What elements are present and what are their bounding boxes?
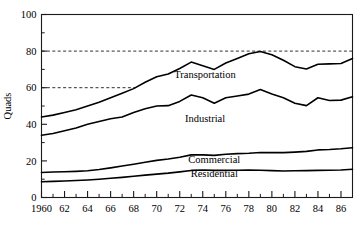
series-line-transportation: [42, 51, 353, 117]
x-tick-label-1976: 76: [221, 203, 232, 214]
x-tick-label-1984: 84: [313, 203, 324, 214]
x-tick-label-1970: 70: [151, 203, 162, 214]
x-tick-label-1966: 66: [105, 203, 116, 214]
x-tick-label-1982: 82: [290, 203, 301, 214]
y-axis-title-text: Quads: [2, 93, 13, 120]
x-tick-label-1968: 68: [128, 203, 139, 214]
series-label-industrial: Industrial: [185, 113, 225, 124]
y-tick-label-40: 40: [26, 119, 37, 130]
energy-consumption-chart: 196062646668707274767880828486 020406080…: [0, 0, 362, 230]
y-tick-label-0: 0: [31, 192, 36, 203]
y-tick-label-80: 80: [26, 46, 37, 57]
x-tick-label-1980: 80: [267, 203, 278, 214]
x-tick-label-1964: 64: [82, 203, 93, 214]
x-tick-label-1974: 74: [198, 203, 209, 214]
x-tick-label-1978: 78: [244, 203, 255, 214]
y-tick-label-100: 100: [21, 9, 37, 20]
x-tick-label-1972: 72: [174, 203, 185, 214]
x-axis-ticks: [42, 191, 353, 198]
y-axis-title: Quads: [2, 93, 13, 120]
x-tick-label-1962: 62: [59, 203, 70, 214]
x-tick-label-1960: 1960: [31, 203, 52, 214]
y-axis-ticks: [42, 15, 48, 198]
series-line-industrial: [42, 90, 353, 136]
series-label-commercial: Commercial: [188, 154, 240, 165]
y-axis-tick-labels: 020406080100: [21, 9, 37, 203]
y-tick-label-60: 60: [26, 82, 37, 93]
series-labels: TransportationIndustrialCommercialReside…: [174, 69, 240, 180]
series-label-residential: Residential: [191, 168, 238, 179]
chart-canvas: 196062646668707274767880828486 020406080…: [0, 0, 362, 230]
x-tick-label-1986: 86: [336, 203, 347, 214]
y-tick-label-20: 20: [26, 156, 37, 167]
series-label-transportation: Transportation: [174, 69, 236, 80]
x-axis-tick-labels: 196062646668707274767880828486: [31, 203, 346, 214]
